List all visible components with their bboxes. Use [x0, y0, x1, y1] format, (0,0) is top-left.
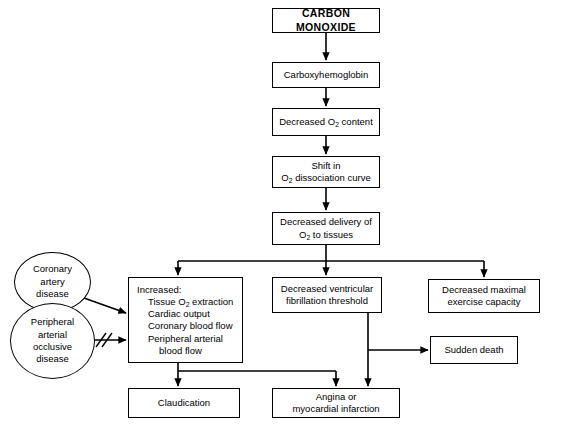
node-decreased-o2-content[interactable]: Decreased O2 content — [272, 108, 380, 136]
node-increased-list-label: Increased: Tissue O2 extraction Cardiac … — [137, 284, 234, 357]
node-coronary-artery-disease-label: Coronary artery disease — [33, 263, 72, 300]
node-decreased-ventricular-label: Decreased ventricular fibrillation thres… — [281, 283, 373, 307]
node-shift-dissociation-curve-label: Shift in O2 dissociation curve — [281, 160, 370, 184]
node-decreased-o2-content-label: Decreased O2 content — [279, 116, 373, 128]
flowchart-canvas: CARBON MONOXIDE Carboxyhemoglobin Decrea… — [0, 0, 561, 434]
node-angina-label: Angina or myocardial infarction — [292, 391, 379, 415]
node-carboxyhemoglobin[interactable]: Carboxyhemoglobin — [272, 62, 380, 88]
edge-coronary-to-increased — [84, 298, 126, 313]
node-carbon-monoxide-label: CARBON MONOXIDE — [273, 7, 379, 34]
node-peripheral-arterial-occlusive-disease-label: Peripheral arterial occlusive disease — [31, 316, 74, 365]
node-decreased-delivery-label: Decreased delivery of O2 to tissues — [280, 216, 372, 240]
node-carbon-monoxide[interactable]: CARBON MONOXIDE — [272, 8, 380, 33]
node-carboxyhemoglobin-label: Carboxyhemoglobin — [284, 69, 369, 81]
node-decreased-delivery[interactable]: Decreased delivery of O2 to tissues — [272, 212, 380, 245]
node-sudden-death-label: Sudden death — [444, 344, 503, 356]
node-sudden-death[interactable]: Sudden death — [430, 336, 518, 364]
node-decreased-ventricular-fibrillation-threshold[interactable]: Decreased ventricular fibrillation thres… — [272, 277, 382, 313]
node-angina-myocardial-infarction[interactable]: Angina or myocardial infarction — [272, 388, 400, 418]
node-claudication-label: Claudication — [158, 397, 210, 409]
node-decreased-maximal-label: Decreased maximal exercise capacity — [442, 284, 526, 308]
node-peripheral-arterial-occlusive-disease[interactable]: Peripheral arterial occlusive disease — [10, 303, 95, 379]
node-decreased-maximal-exercise-capacity[interactable]: Decreased maximal exercise capacity — [428, 279, 540, 313]
node-increased-list[interactable]: Increased: Tissue O2 extraction Cardiac … — [128, 277, 243, 363]
node-shift-dissociation-curve[interactable]: Shift in O2 dissociation curve — [272, 156, 380, 188]
node-claudication[interactable]: Claudication — [128, 388, 240, 418]
